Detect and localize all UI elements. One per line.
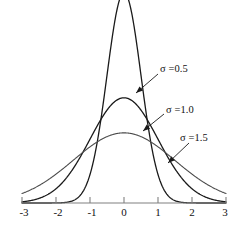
x-tick-label: 3 bbox=[222, 206, 228, 218]
x-tick-label: -1 bbox=[87, 206, 96, 218]
normal-distribution-figure: -3-2-10123 σ =0.5σ =1.0σ =1.5 bbox=[0, 0, 233, 228]
x-tick-label: -3 bbox=[19, 206, 28, 218]
x-tick-label: 2 bbox=[189, 206, 195, 218]
x-axis bbox=[22, 197, 226, 203]
x-tick-label: 0 bbox=[121, 206, 127, 218]
series-label-1: σ =0.5 bbox=[160, 63, 188, 74]
curve-sigma-1-0 bbox=[22, 98, 226, 202]
plot-canvas bbox=[0, 0, 233, 228]
curve-sigma-0-5 bbox=[22, 0, 226, 203]
series-label-2: σ =1.0 bbox=[166, 104, 194, 115]
series-label-3: σ =1.5 bbox=[180, 132, 208, 143]
x-tick-label: 1 bbox=[155, 206, 161, 218]
curves-group bbox=[22, 0, 226, 203]
x-tick-label: -2 bbox=[53, 206, 62, 218]
